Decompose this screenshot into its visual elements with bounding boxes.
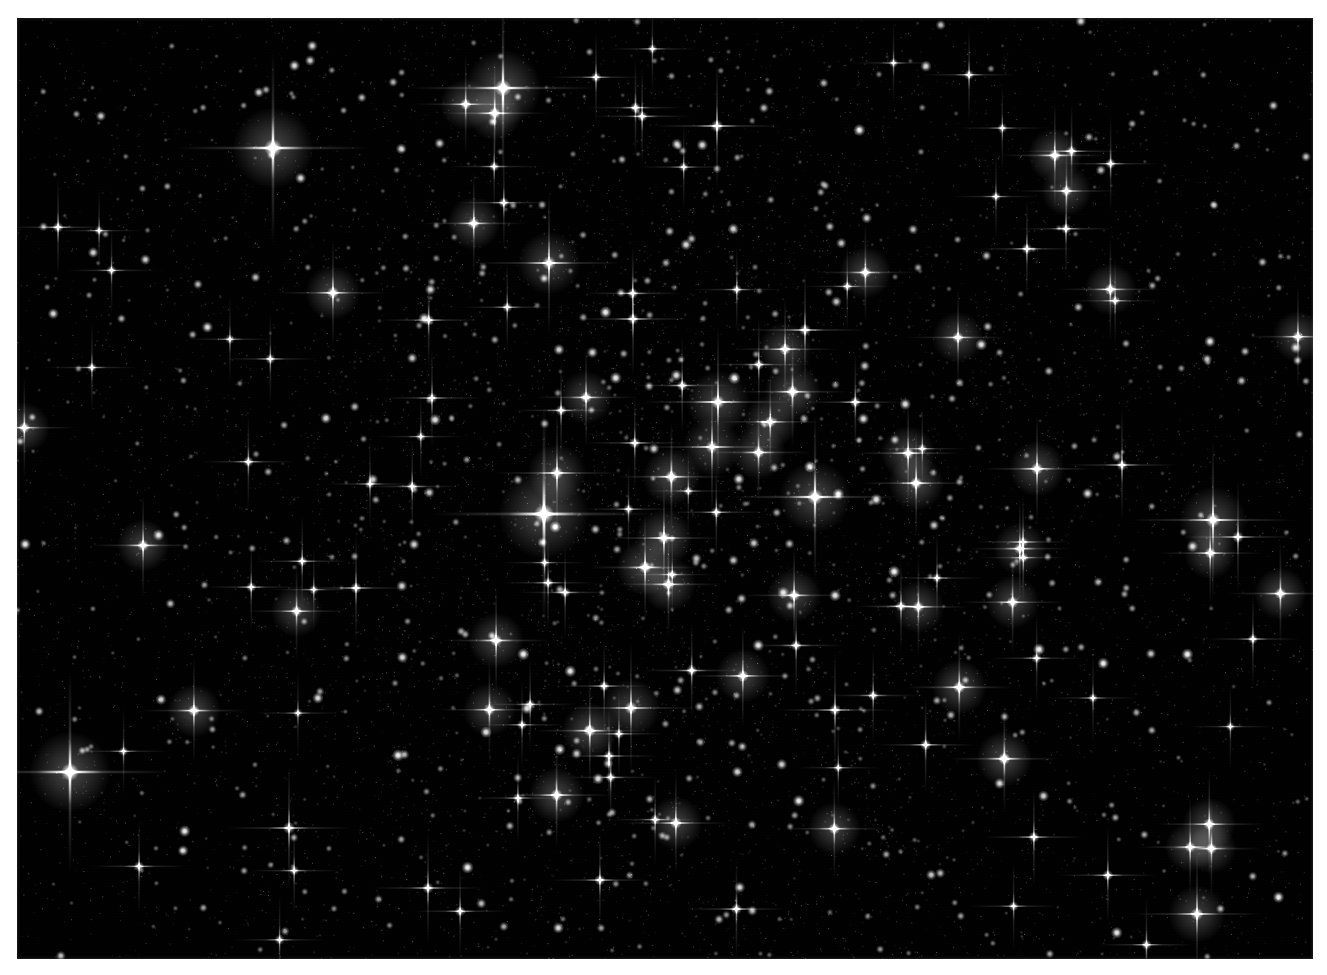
astronomical-plate [17, 18, 1313, 959]
page-root: globular star cluster [0, 0, 1327, 975]
starfield-canvas [17, 18, 1313, 959]
